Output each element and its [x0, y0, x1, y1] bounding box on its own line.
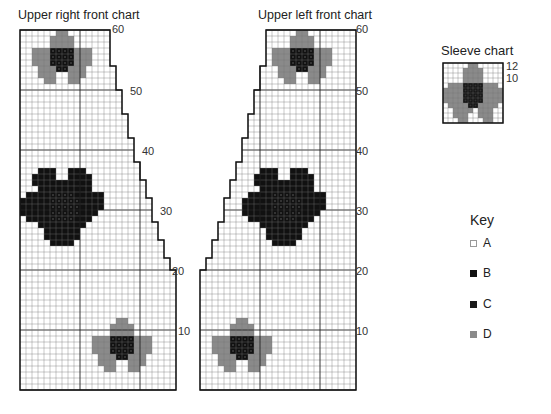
sleeve-row-label-12: 12 [506, 60, 518, 72]
sleeve-row-label-10: 10 [506, 72, 518, 84]
key-item-b: B [470, 266, 491, 280]
knitting-charts-canvas [0, 0, 551, 414]
row-label-30-b: 30 [356, 205, 368, 217]
row-label-60-b: 60 [356, 23, 368, 35]
row-label-40-a: 40 [142, 145, 154, 157]
row-label-40-b: 40 [356, 145, 368, 157]
key-item-d: D [470, 327, 492, 341]
row-label-10-a: 10 [178, 325, 190, 337]
row-label-50-a: 50 [130, 85, 142, 97]
row-label-50-b: 50 [356, 85, 368, 97]
swatch-dot-icon [470, 270, 477, 277]
key-label: C [483, 297, 492, 311]
key-label: D [483, 327, 492, 341]
swatch-solid-icon [470, 301, 477, 308]
key-item-a: A [470, 236, 491, 250]
key-item-c: C [470, 297, 492, 311]
row-label-10-b: 10 [356, 325, 368, 337]
row-label-20-b: 20 [356, 265, 368, 277]
key-title: Key [470, 212, 494, 228]
swatch-grey-icon [470, 331, 477, 338]
key-label: A [483, 236, 491, 250]
row-label-20-a: 20 [172, 265, 184, 277]
key-label: B [483, 266, 491, 280]
row-label-30-a: 30 [160, 205, 172, 217]
row-label-60-a: 60 [112, 23, 124, 35]
swatch-empty-icon [470, 240, 477, 247]
